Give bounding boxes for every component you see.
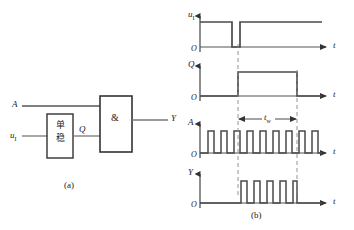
origin-label-a: O xyxy=(191,150,197,159)
origin-label-ui: O xyxy=(191,44,197,53)
waveform-row-q xyxy=(200,66,326,101)
origin-label-y: O xyxy=(191,200,197,209)
label-input-a: A xyxy=(12,100,18,109)
monostable-label-line1: 单 xyxy=(51,120,69,130)
and-gate-symbol: & xyxy=(111,112,119,123)
waveform-row-y xyxy=(200,174,326,208)
origin-label-q: O xyxy=(191,93,197,102)
label-waveform-q: Q xyxy=(188,60,195,69)
axis-label-t-a: t xyxy=(333,147,336,156)
label-input-ui: uI xyxy=(10,131,17,142)
caption-b: (b) xyxy=(251,210,262,220)
waveform-row-a xyxy=(200,124,326,158)
label-waveform-y: Y xyxy=(188,168,193,177)
caption-a: (a) xyxy=(64,180,74,190)
label-pulse-width-tw: tw xyxy=(264,113,271,124)
label-waveform-ui: uI xyxy=(188,10,195,21)
signal-trace-ui xyxy=(200,22,322,47)
waveform-row-ui xyxy=(200,16,326,52)
signal-trace-a xyxy=(200,131,322,153)
timing-diagram xyxy=(200,16,326,208)
figure-container: A uI 单 稳 Q & Y (a) uI O t Q O t A O t Y … xyxy=(0,0,354,230)
axis-label-t-q: t xyxy=(333,90,336,99)
and-gate-block xyxy=(100,96,132,152)
signal-trace-y xyxy=(200,181,322,203)
label-output-y: Y xyxy=(171,114,176,123)
monostable-label-line2: 稳 xyxy=(51,133,69,143)
axis-label-t-y: t xyxy=(333,197,336,206)
signal-trace-q xyxy=(200,72,322,96)
figure-graphics xyxy=(0,0,354,230)
label-waveform-a: A xyxy=(188,118,194,127)
circuit-diagram xyxy=(22,96,168,158)
axis-label-t-ui: t xyxy=(333,41,336,50)
label-q-signal: Q xyxy=(79,125,86,134)
